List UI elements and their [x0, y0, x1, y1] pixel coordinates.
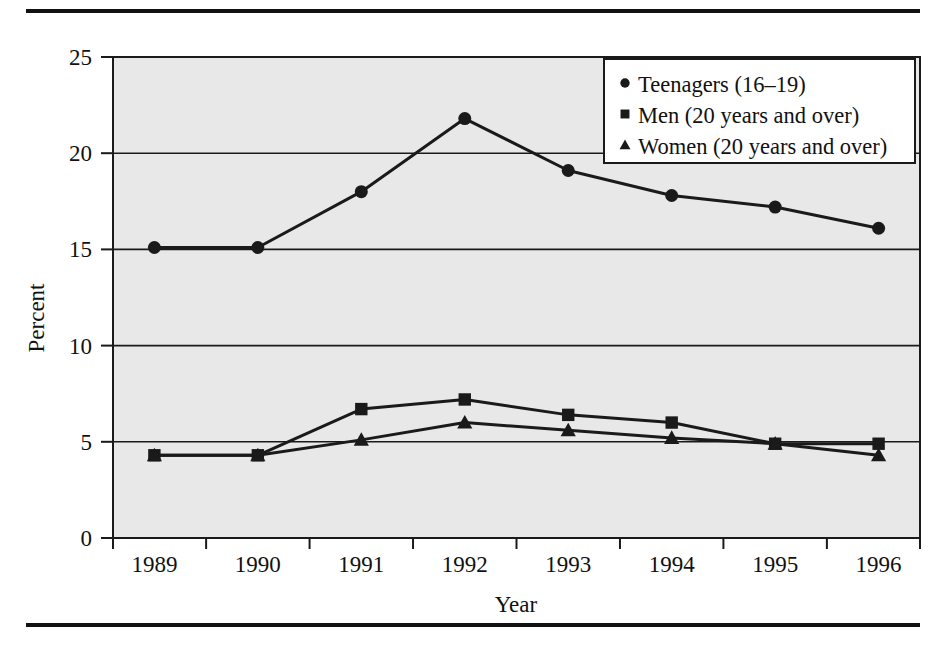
data-point-square	[562, 409, 574, 421]
y-tick-label: 10	[69, 334, 92, 359]
legend-item[interactable]: Teenagers (16–19)	[620, 72, 805, 97]
x-tick-label: 1991	[338, 552, 384, 577]
data-point-square	[621, 110, 630, 119]
x-axis-title: Year	[495, 592, 538, 617]
x-tick-label: 1994	[649, 552, 696, 577]
y-tick-label: 25	[69, 45, 92, 70]
y-axis: 0510152025	[69, 45, 113, 551]
legend-item[interactable]: Women (20 years and over)	[620, 134, 888, 159]
y-axis-title: Percent	[24, 283, 49, 353]
legend-item-label: Women (20 years and over)	[638, 134, 887, 159]
data-point-circle	[769, 201, 782, 214]
data-point-circle	[251, 241, 264, 254]
line-chart: 0510152025 19891990199119921993199419951…	[0, 0, 946, 648]
x-tick-label: 1993	[545, 552, 591, 577]
figure-container: 0510152025 19891990199119921993199419951…	[0, 0, 946, 648]
data-point-square	[665, 416, 677, 428]
data-point-square	[355, 403, 367, 415]
chart-legend: Teenagers (16–19)Men (20 years and over)…	[604, 59, 915, 163]
y-tick-label: 0	[81, 526, 93, 551]
x-tick-label: 1990	[235, 552, 281, 577]
data-point-circle	[872, 222, 885, 235]
y-tick-label: 5	[81, 430, 93, 455]
x-tick-label: 1992	[442, 552, 488, 577]
y-tick-label: 15	[69, 237, 92, 262]
data-point-circle	[620, 78, 629, 87]
data-point-circle	[665, 189, 678, 202]
x-tick-label: 1989	[131, 552, 177, 577]
data-point-circle	[355, 185, 368, 198]
data-point-circle	[148, 241, 161, 254]
x-tick-label: 1995	[752, 552, 798, 577]
legend-item-label: Teenagers (16–19)	[638, 72, 806, 97]
data-point-circle	[458, 112, 471, 125]
x-axis: 19891990199119921993199419951996	[113, 538, 920, 577]
data-point-square	[459, 393, 471, 405]
legend-item-label: Men (20 years and over)	[638, 103, 859, 128]
x-tick-label: 1996	[856, 552, 902, 577]
chart-area: 0510152025 19891990199119921993199419951…	[0, 0, 946, 648]
data-point-circle	[562, 164, 575, 177]
legend-item[interactable]: Men (20 years and over)	[621, 103, 860, 128]
y-tick-label: 20	[69, 141, 92, 166]
